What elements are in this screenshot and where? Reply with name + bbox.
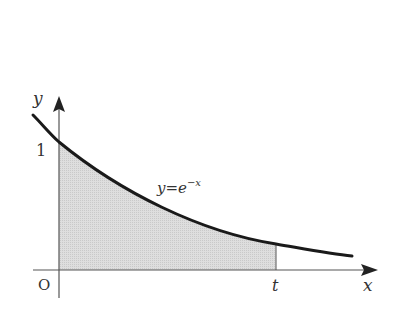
curve-equation-exponent: −x — [187, 177, 201, 188]
shaded-area — [59, 142, 276, 270]
curve-equation-label: y=e−x — [156, 177, 201, 197]
diagram-canvas: y 1 O t x y=e−x — [0, 0, 414, 328]
t-label: t — [272, 276, 279, 295]
x-axis-label: x — [363, 275, 373, 295]
y-tick-one-label: 1 — [36, 141, 46, 160]
y-axis-label: y — [32, 88, 43, 108]
origin-label: O — [38, 276, 50, 294]
exponential-area-diagram: y 1 O t x y=e−x — [0, 0, 414, 328]
curve-equation-base: y=e — [156, 179, 187, 197]
